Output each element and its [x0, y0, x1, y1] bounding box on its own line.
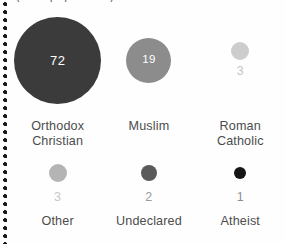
bubble-label-orthodox-christian: Orthodox Christian — [31, 119, 84, 148]
bubble-roman-catholic[interactable] — [231, 42, 249, 60]
bubble-orthodox-christian[interactable]: 72 — [14, 17, 101, 104]
bubble-well — [103, 160, 194, 186]
bubble-well: 72 — [12, 10, 103, 110]
bubble-row-secondary: 3 Other 2 Undeclared 1 Atheist — [12, 160, 286, 244]
bubble-value-atheist: 1 — [237, 191, 244, 204]
bubble-value-orthodox-christian: 72 — [50, 54, 65, 67]
bubble-label-other: Other — [42, 214, 74, 229]
bubble-atheist[interactable] — [234, 167, 246, 179]
bubble-other[interactable] — [49, 164, 67, 182]
bubble-label-undeclared: Undeclared — [116, 214, 182, 229]
bubble-well — [12, 160, 103, 186]
dotted-border-rule — [3, 0, 8, 244]
bubble-cell-undeclared[interactable]: 2 Undeclared — [103, 160, 194, 228]
bubble-undeclared[interactable] — [141, 165, 157, 181]
bubble-label-atheist: Atheist — [220, 214, 260, 229]
bubble-value-muslim: 19 — [142, 54, 155, 66]
bubble-well: 19 — [103, 10, 194, 110]
bubble-cell-orthodox-christian[interactable]: 72 Orthodox Christian — [12, 10, 103, 148]
bubble-value-other: 3 — [54, 191, 61, 204]
bubble-chart-figure: (% of population) 72 Orthodox Christian … — [0, 0, 286, 244]
bubble-cell-other[interactable]: 3 Other — [12, 160, 103, 228]
bubble-label-muslim: Muslim — [129, 119, 170, 134]
bubble-label-roman-catholic: Roman Catholic — [217, 119, 264, 148]
bubble-well — [195, 160, 286, 186]
bubble-cell-roman-catholic[interactable]: 3 Roman Catholic — [195, 10, 286, 148]
chart-title-clipped: (% of population) — [16, 0, 266, 2]
bubble-muslim[interactable]: 19 — [126, 38, 171, 83]
bubble-cell-muslim[interactable]: 19 Muslim — [103, 10, 194, 134]
bubble-plot-area: 72 Orthodox Christian 19 Muslim 3 — [12, 4, 286, 244]
bubble-value-roman-catholic: 3 — [237, 65, 244, 78]
bubble-well: 3 — [195, 10, 286, 110]
bubble-row-primary: 72 Orthodox Christian 19 Muslim 3 — [12, 10, 286, 158]
bubble-cell-atheist[interactable]: 1 Atheist — [195, 160, 286, 228]
bubble-value-undeclared: 2 — [145, 191, 152, 204]
